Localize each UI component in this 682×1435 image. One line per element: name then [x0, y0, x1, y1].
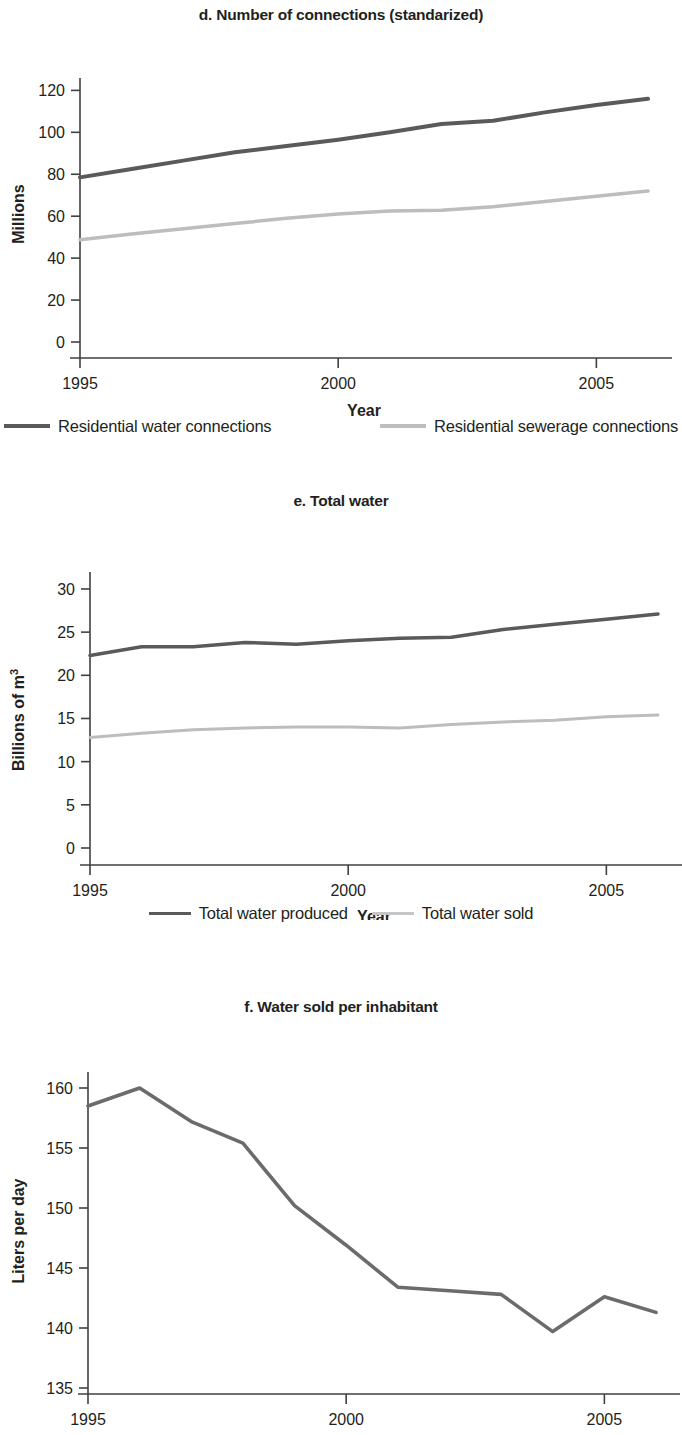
- legend-item-residential-water-connections: Residential water connections: [4, 418, 271, 435]
- x-tick-label: 2005: [589, 882, 625, 899]
- y-tick-label: 145: [46, 1260, 73, 1277]
- series-line-1: [88, 1088, 656, 1332]
- series-line-2: [90, 715, 658, 737]
- chart-e-legend: Total water produced Total water sold: [0, 905, 682, 922]
- chart-d-legend: Residential water connections Residentia…: [0, 418, 682, 435]
- legend-swatch-dark: [4, 424, 50, 428]
- x-tick-label: 2000: [330, 882, 366, 899]
- x-tick-label: 2005: [587, 1411, 623, 1428]
- y-tick-label: 150: [46, 1200, 73, 1217]
- chart-f-plot-area: 135140145150155160199520002005YearLiters…: [0, 1016, 682, 1435]
- y-tick-label: 0: [66, 840, 75, 857]
- chart-e-title: e. Total water: [0, 480, 682, 510]
- y-axis-title-superscript: 3: [8, 669, 20, 675]
- x-tick-label: 2000: [320, 375, 356, 392]
- legend-swatch-light: [372, 912, 414, 916]
- y-tick-label: 80: [47, 166, 65, 183]
- chart-e-svg: 051015202530199520002005YearBillions of …: [0, 510, 682, 920]
- y-tick-label: 140: [46, 1320, 73, 1337]
- chart-d-title: d. Number of connections (standarized): [0, 0, 682, 24]
- chart-f-title: f. Water sold per inhabitant: [0, 980, 682, 1016]
- y-tick-label: 25: [57, 624, 75, 641]
- y-tick-label: 20: [57, 667, 75, 684]
- chart-f-svg: 135140145150155160199520002005YearLiters…: [0, 1016, 682, 1435]
- legend-label-total-water-produced: Total water produced: [199, 905, 348, 922]
- legend-label-residential-sewerage-connections: Residential sewerage connections: [434, 418, 678, 435]
- legend-swatch-dark: [149, 912, 191, 916]
- legend-item-total-water-sold: Total water sold: [372, 905, 533, 922]
- y-tick-label: 160: [46, 1080, 73, 1097]
- chart-panel-d: d. Number of connections (standarized) 0…: [0, 0, 682, 470]
- chart-panel-f: f. Water sold per inhabitant 13514014515…: [0, 980, 682, 1435]
- chart-d-svg: 020406080100120199520002005YearMillions: [0, 24, 682, 424]
- x-tick-label: 2005: [579, 375, 615, 392]
- y-tick-label: 15: [57, 710, 75, 727]
- series-line-2: [80, 191, 648, 240]
- legend-item-residential-sewerage-connections: Residential sewerage connections: [380, 418, 678, 435]
- legend-swatch-light: [380, 424, 426, 428]
- y-tick-label: 20: [47, 292, 65, 309]
- y-tick-label: 60: [47, 208, 65, 225]
- y-tick-label: 0: [56, 334, 65, 351]
- y-tick-label: 5: [66, 797, 75, 814]
- y-tick-label: 30: [57, 581, 75, 598]
- x-axis-title: Year: [347, 402, 381, 419]
- y-axis-title: Millions: [10, 184, 27, 244]
- x-tick-label: 2000: [328, 1411, 364, 1428]
- y-tick-label: 135: [46, 1380, 73, 1397]
- chart-d-plot-area: 020406080100120199520002005YearMillions: [0, 24, 682, 424]
- y-tick-label: 120: [38, 82, 65, 99]
- x-tick-label: 1995: [62, 375, 98, 392]
- series-line-1: [80, 99, 648, 178]
- chart-panel-e: e. Total water 051015202530199520002005Y…: [0, 480, 682, 950]
- legend-label-total-water-sold: Total water sold: [422, 905, 533, 922]
- y-tick-label: 40: [47, 250, 65, 267]
- legend-label-residential-water-connections: Residential water connections: [58, 418, 271, 435]
- series-line-1: [90, 614, 658, 655]
- y-tick-label: 155: [46, 1140, 73, 1157]
- y-tick-label: 10: [57, 754, 75, 771]
- x-tick-label: 1995: [70, 1411, 106, 1428]
- chart-e-plot-area: 051015202530199520002005YearBillions of …: [0, 510, 682, 920]
- y-axis-title: Billions of m3: [8, 669, 27, 771]
- y-tick-label: 100: [38, 124, 65, 141]
- legend-item-total-water-produced: Total water produced: [149, 905, 348, 922]
- x-tick-label: 1995: [72, 882, 108, 899]
- y-axis-title: Liters per day: [10, 1178, 27, 1283]
